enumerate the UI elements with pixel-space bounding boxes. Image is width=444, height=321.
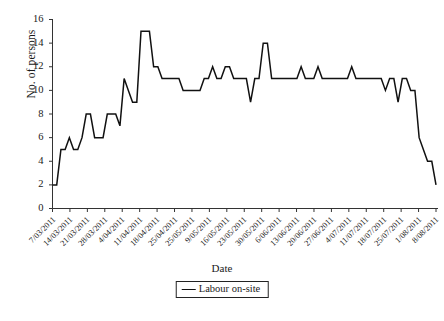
legend-line-swatch: [182, 289, 196, 290]
x-axis-title: Date: [0, 262, 444, 274]
data-series-labour-on-site: [53, 31, 437, 185]
chart-legend: Labour on-site: [176, 281, 269, 298]
legend-label: Labour on-site: [199, 283, 261, 295]
chart-figure: No. of persons 0246810121416 7/03/201114…: [0, 0, 444, 321]
